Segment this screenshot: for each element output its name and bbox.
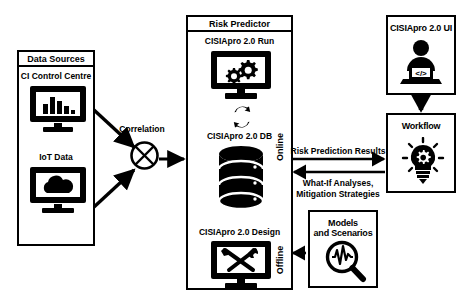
cisiapro-design-label: CISIApro 2.0 Design	[188, 227, 291, 237]
workflow-title: Workflow	[388, 121, 454, 131]
models-title-line-2: and Scenarios	[310, 228, 376, 238]
lightbulb-gear-icon	[401, 137, 445, 191]
gears-monitor-icon	[209, 49, 273, 105]
online-label: Online	[275, 127, 285, 167]
developer-laptop-icon: </>	[399, 39, 443, 91]
bar-chart-monitor-icon	[28, 84, 88, 138]
models-and-scenarios-box[interactable]: Models and Scenarios	[308, 210, 378, 288]
data-sources-title: Data Sources	[19, 52, 93, 67]
magnifier-waveform-icon	[325, 240, 367, 288]
offline-label: Offline	[275, 240, 285, 280]
cisiapro-ui-box[interactable]: CISIApro 2.0 UI </>	[386, 15, 456, 95]
database-icon	[217, 145, 265, 219]
risk-prediction-results-label: Risk Prediction Results	[290, 146, 386, 157]
what-if-analyses-label: What-If Analyses, Mitigation Strategies	[288, 178, 388, 200]
models-title-line-1: Models	[310, 218, 376, 228]
cisiapro-run-label: CISIApro 2.0 Run	[188, 36, 291, 46]
svg-text:</>: </>	[415, 69, 427, 78]
risk-predictor-title: Risk Predictor	[188, 17, 291, 32]
iot-data-label: IoT Data	[19, 152, 93, 162]
diagram-canvas: Data Sources CI Control Centre IoT Data	[0, 0, 476, 304]
data-sources-box[interactable]: Data Sources CI Control Centre IoT Data	[17, 50, 95, 246]
tools-monitor-icon	[209, 239, 273, 295]
what-if-line-2: Mitigation Strategies	[296, 189, 380, 199]
correlation-label: Correlation	[107, 124, 177, 135]
cisiapro-ui-title: CISIApro 2.0 UI	[388, 23, 454, 33]
cloud-monitor-icon	[28, 165, 88, 221]
workflow-box[interactable]: Workflow	[386, 113, 456, 193]
what-if-line-1: What-If Analyses,	[303, 178, 374, 188]
sync-arrows-icon	[232, 105, 252, 133]
crossed-circle-icon[interactable]	[129, 140, 160, 175]
ci-control-centre-label: CI Control Centre	[19, 71, 93, 81]
risk-predictor-box[interactable]: Risk Predictor CISIApro 2.0 Run	[186, 15, 293, 290]
